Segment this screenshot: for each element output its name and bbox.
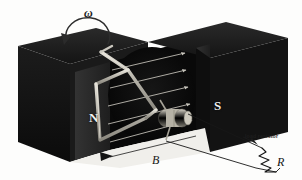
generator-diagram [0,0,302,180]
north-pole-face [75,62,110,160]
lead-wire-return [276,168,280,172]
generator-figure: ω N S B R load resistor [0,0,302,180]
slip-ring-cap [184,111,192,125]
north-block-front-face [18,46,70,162]
south-block-side-face [210,38,288,152]
resistor-zigzag [259,148,276,172]
load-resistor [259,148,276,172]
